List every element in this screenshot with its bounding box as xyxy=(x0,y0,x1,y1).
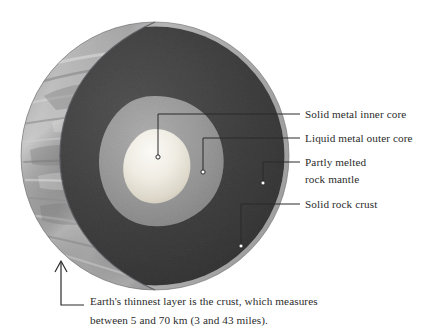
figure-caption: Earth's thinnest layer is the crust, whi… xyxy=(90,292,410,330)
label-solid-rock-crust: Solid rock crust xyxy=(305,196,377,213)
earth-cutaway-illustration xyxy=(0,0,445,334)
marker-inner-core xyxy=(156,155,160,159)
marker-outer-core xyxy=(201,170,205,174)
label-mantle-line-2: rock mantle xyxy=(305,173,359,185)
caption-line-1: Earth's thinnest layer is the crust, whi… xyxy=(90,292,410,311)
marker-crust xyxy=(239,244,243,248)
marker-mantle xyxy=(261,181,265,185)
caption-arrow xyxy=(55,261,84,305)
label-liquid-metal-outer-core: Liquid metal outer core xyxy=(305,130,413,147)
earth-layers-diagram-page: Solid metal inner core Liquid metal oute… xyxy=(0,0,445,334)
label-partly-melted-rock-mantle: Partly meltedrock mantle xyxy=(305,154,366,188)
label-mantle-line-1: Partly melted xyxy=(305,156,366,168)
sphere-group xyxy=(21,22,289,290)
caption-line-2: between 5 and 70 km (3 and 43 miles). xyxy=(90,311,410,330)
label-solid-metal-inner-core: Solid metal inner core xyxy=(305,106,406,123)
